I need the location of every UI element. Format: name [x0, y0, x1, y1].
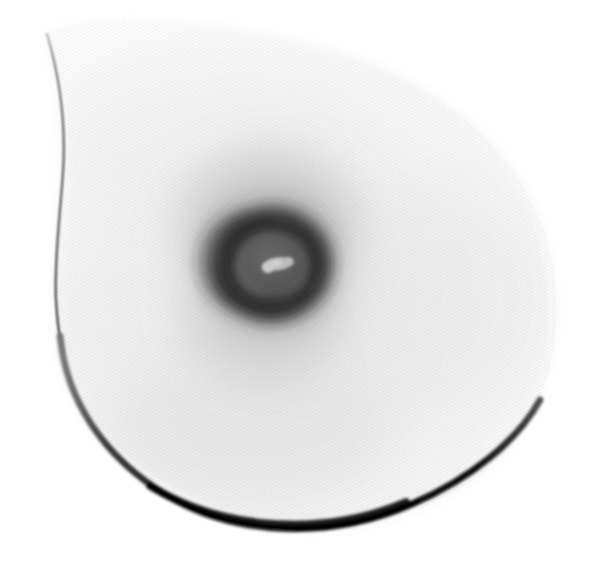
- medical-scan-viewport: Mammographic projection of breast tissue: [0, 0, 593, 573]
- scan-canvas: [0, 0, 593, 573]
